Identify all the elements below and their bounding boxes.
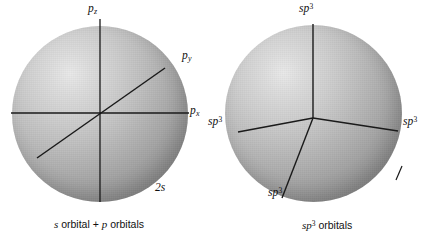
label-py-base: p: [182, 49, 188, 61]
s-orbital-sphere: [12, 26, 188, 202]
label-py: py: [182, 50, 192, 63]
label-sp3-left-base: sp: [208, 115, 218, 127]
caption-left-suffix: orbitals: [107, 218, 144, 230]
label-sp3-top: sp3: [299, 3, 313, 15]
caption-right-suffix: orbitals: [316, 219, 353, 231]
label-sp3-left: sp3: [208, 116, 222, 128]
label-sp3-bottom-base: sp: [268, 186, 278, 198]
orbital-figure: pz py px 2s sp3 sp3 sp3 sp3 s orbital + …: [0, 0, 428, 239]
label-px-subscript: x: [196, 109, 200, 118]
label-sp3-top-superscript: 3: [310, 2, 314, 11]
caption-right-sp: sp: [302, 219, 312, 231]
label-px-base: p: [190, 104, 196, 116]
label-2s-base: 2s: [155, 181, 165, 193]
label-sp3-right-superscript: 3: [414, 115, 418, 124]
caption-left-panel: s orbital + p orbitals: [54, 219, 144, 230]
label-pz: pz: [88, 3, 97, 16]
label-sp3-left-superscript: 3: [219, 115, 223, 124]
label-sp3-bottom: sp3: [268, 187, 282, 199]
label-sp3-right-base: sp: [403, 115, 413, 127]
label-px: px: [190, 105, 200, 118]
caption-right-panel: sp3 orbitals: [302, 220, 352, 231]
label-pz-base: p: [88, 2, 94, 14]
sp3-orbital-sphere: [225, 25, 402, 202]
label-sp3-top-base: sp: [299, 2, 309, 14]
label-py-subscript: y: [188, 54, 192, 63]
label-pz-subscript: z: [94, 7, 97, 16]
caption-left-middle: orbital +: [58, 218, 101, 230]
label-sp3-right: sp3: [403, 116, 417, 128]
label-2s: 2s: [155, 182, 165, 194]
label-sp3-bottom-superscript: 3: [279, 186, 283, 195]
stray-tick-mark: [396, 166, 402, 180]
